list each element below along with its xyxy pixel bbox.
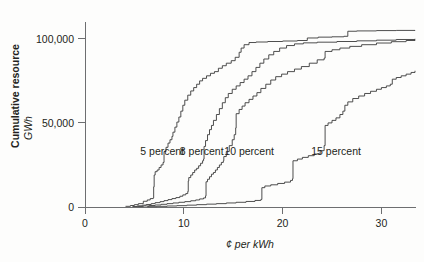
series-line-8-percent <box>132 39 415 207</box>
series-annotation: 5 percent <box>140 145 184 157</box>
series-layer <box>126 30 416 207</box>
x-tick-label: 10 <box>178 217 190 229</box>
series-line-5-percent <box>126 30 416 206</box>
y-axis-unit-label: GWh <box>22 116 34 140</box>
x-axis-ticks: 0102030 <box>82 207 387 229</box>
y-axis-group: 050,000100,000 <box>36 22 85 213</box>
series-annotation: 15 percent <box>311 145 361 157</box>
series-annotations: 5 percent8 percent10 percent15 percent <box>140 145 361 157</box>
x-tick-label: 30 <box>376 217 388 229</box>
x-axis-group: 0102030 <box>82 207 416 229</box>
series-annotation: 8 percent <box>180 145 224 157</box>
x-tick-label: 0 <box>82 217 88 229</box>
chart-figure: 050,000100,000 0102030 5 percent8 percen… <box>0 0 424 262</box>
y-tick-label: 50,000 <box>42 117 74 129</box>
y-axis-title: Cumulative resource <box>9 44 21 148</box>
x-axis-title: ¢ per kWh <box>226 238 274 250</box>
cumulative-resource-supply-chart: 050,000100,000 0102030 5 percent8 percen… <box>0 0 424 262</box>
y-tick-label: 100,000 <box>36 33 74 45</box>
series-annotation: 10 percent <box>224 145 274 157</box>
x-tick-label: 20 <box>277 217 289 229</box>
y-axis-ticks: 050,000100,000 <box>36 33 85 213</box>
series-line-10-percent <box>137 40 415 207</box>
series-line-15-percent <box>147 71 415 207</box>
y-tick-label: 0 <box>68 201 74 213</box>
